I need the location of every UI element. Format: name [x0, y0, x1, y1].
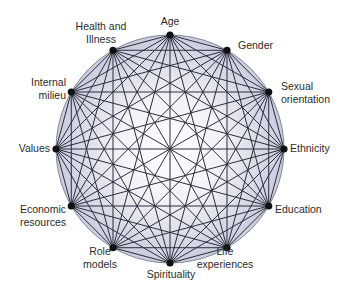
label-line: Economic [20, 203, 66, 216]
label-line: Spirituality [147, 268, 195, 281]
node-sexual-orientation [265, 88, 272, 95]
label-age: Age [161, 15, 180, 28]
node-values [52, 145, 59, 152]
label-line: Age [161, 15, 180, 28]
label-sexual-orientation: Sexualorientation [281, 80, 330, 106]
label-economic-resources: Economicresources [20, 203, 66, 229]
node-health-and-illness [109, 47, 116, 54]
label-line: Ethnicity [290, 142, 330, 155]
label-health-and-illness: Health andIllness [76, 20, 127, 46]
label-line: Role [83, 245, 117, 258]
label-role-models: Rolemodels [83, 245, 117, 271]
label-line: resources [20, 216, 66, 229]
label-line: Life [197, 245, 254, 258]
node-gender [223, 47, 230, 54]
label-line: Values [19, 142, 50, 155]
node-ethnicity [280, 145, 287, 152]
label-line: Sexual [281, 80, 330, 93]
node-education [265, 202, 272, 209]
label-line: Gender [238, 39, 273, 52]
label-line: Education [275, 203, 322, 216]
label-life-experiences: Lifeexperiences [197, 245, 254, 271]
label-line: milieu [31, 89, 66, 102]
label-line: orientation [281, 93, 330, 106]
label-education: Education [275, 203, 322, 216]
label-line: models [83, 258, 117, 271]
label-internal-milieu: Internalmilieu [31, 76, 66, 102]
node-economic-resources [68, 202, 75, 209]
label-line: Health and [76, 20, 127, 33]
label-gender: Gender [238, 39, 273, 52]
label-line: experiences [197, 258, 254, 271]
label-line: Illness [76, 33, 127, 46]
node-internal-milieu [68, 88, 75, 95]
label-line: Internal [31, 76, 66, 89]
node-spirituality [166, 259, 173, 266]
label-ethnicity: Ethnicity [290, 142, 330, 155]
label-spirituality: Spirituality [147, 268, 195, 281]
node-age [166, 31, 173, 38]
label-values: Values [19, 142, 50, 155]
